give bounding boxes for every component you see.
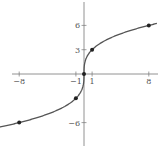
x-tick-label: 1 [90, 77, 95, 86]
data-point [90, 48, 94, 52]
x-tick-label: 8 [146, 77, 151, 86]
y-tick-label: −6 [68, 119, 80, 128]
function-curve [0, 23, 157, 127]
x-tick-label: −1 [70, 77, 82, 86]
y-tick-label: 3 [75, 46, 80, 55]
data-point [74, 96, 78, 100]
cube-root-graph: −8−11863−6 [0, 0, 165, 150]
x-tick-label: −8 [13, 77, 25, 86]
data-point [17, 121, 21, 125]
data-point [82, 72, 86, 76]
y-tick-label: 6 [75, 21, 80, 30]
data-point [147, 23, 151, 27]
